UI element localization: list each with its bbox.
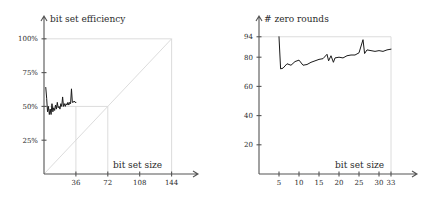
figure-row: 367210814425%50%75%100% bit set efficien… — [0, 0, 431, 203]
y-tick-label: 80 — [244, 54, 253, 62]
chart-panel-zero-rounds: 51015202530332040608094 # zero rounds bi… — [215, 0, 431, 203]
x-axis-line-left — [44, 171, 198, 177]
x-axis-title-left: bit set size — [113, 160, 162, 170]
y-tick-label: 100% — [18, 35, 38, 43]
y-tick-label: 94 — [244, 33, 253, 41]
x-tick-label: 144 — [165, 179, 179, 187]
x-tick-label: 36 — [71, 179, 80, 187]
x-tick-label: 108 — [133, 179, 146, 187]
guide-lines-right — [259, 37, 391, 174]
y-tick-label: 60 — [244, 83, 253, 91]
axes-right — [256, 16, 417, 177]
x-axis-line-right — [259, 171, 417, 177]
y-tick-label: 20 — [244, 141, 253, 149]
x-axis-title-right: bit set size — [335, 160, 384, 170]
chart-svg-right: 51015202530332040608094 # zero rounds bi… — [215, 0, 431, 203]
data-series-zero-rounds — [279, 37, 391, 69]
x-tick-label: 15 — [315, 179, 324, 187]
x-tick-label: 33 — [387, 179, 396, 187]
y-tick-label: 25% — [22, 137, 38, 145]
x-tick-label: 72 — [103, 179, 112, 187]
y-axis-title-left: bit set efficiency — [50, 14, 126, 24]
y-tick-label: 75% — [22, 69, 38, 77]
chart-svg-left: 367210814425%50%75%100% bit set efficien… — [0, 0, 215, 203]
data-series-bit-set-efficiency — [46, 87, 76, 114]
y-tick-label: 50% — [22, 103, 38, 111]
chart-panel-bit-set-efficiency: 367210814425%50%75%100% bit set efficien… — [0, 0, 215, 203]
x-tick-label: 20 — [335, 179, 344, 187]
y-axis-title-right: # zero rounds — [264, 14, 329, 24]
y-axis-line-right — [256, 16, 262, 174]
y-tick-label: 40 — [244, 112, 253, 120]
x-tick-label: 10 — [295, 179, 304, 187]
x-tick-label: 25 — [355, 179, 364, 187]
x-tick-label: 5 — [277, 179, 281, 187]
x-tick-label: 30 — [375, 179, 384, 187]
